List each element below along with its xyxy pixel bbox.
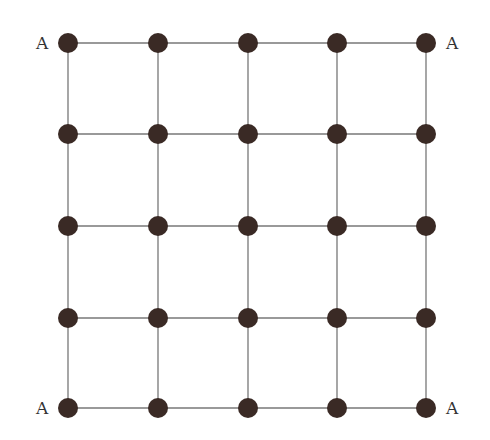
node-0-2 [238, 33, 258, 53]
label-top-left: A [35, 33, 49, 53]
label-bottom-right: A [445, 398, 459, 418]
node-2-2 [238, 216, 258, 236]
node-4-0 [58, 398, 78, 418]
node-3-1 [148, 308, 168, 328]
node-3-4 [416, 308, 436, 328]
node-0-4 [416, 33, 436, 53]
node-2-0 [58, 216, 78, 236]
node-1-2 [238, 124, 258, 144]
label-top-right: A [445, 33, 459, 53]
node-1-4 [416, 124, 436, 144]
node-1-0 [58, 124, 78, 144]
node-1-3 [327, 124, 347, 144]
node-2-4 [416, 216, 436, 236]
node-4-2 [238, 398, 258, 418]
node-1-1 [148, 124, 168, 144]
node-3-2 [238, 308, 258, 328]
node-4-1 [148, 398, 168, 418]
node-2-1 [148, 216, 168, 236]
node-0-3 [327, 33, 347, 53]
node-4-3 [327, 398, 347, 418]
node-4-4 [416, 398, 436, 418]
node-3-3 [327, 308, 347, 328]
node-3-0 [58, 308, 78, 328]
grid-diagram: A A A A [0, 0, 490, 440]
label-bottom-left: A [35, 398, 49, 418]
node-0-1 [148, 33, 168, 53]
node-2-3 [327, 216, 347, 236]
node-0-0 [58, 33, 78, 53]
